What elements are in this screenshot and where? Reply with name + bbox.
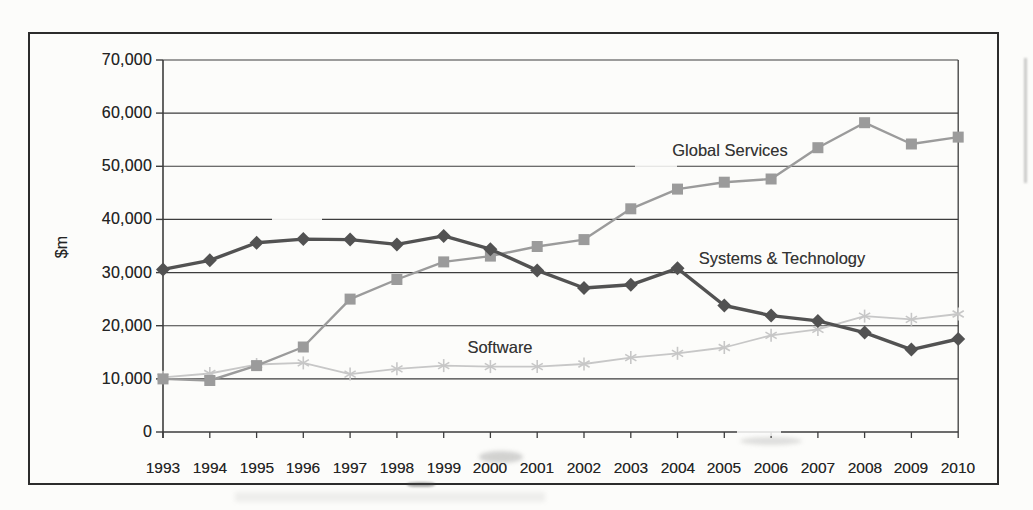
x-tick-label: 2004 (654, 459, 702, 476)
x-tick-label: 2006 (747, 459, 795, 476)
series-label-systems-technology: Systems & Technology (699, 249, 866, 268)
x-tick-label: 1996 (279, 459, 327, 476)
x-tick-label: 2003 (607, 459, 655, 476)
series-label-global-services: Global Services (672, 141, 788, 160)
y-tick-label: 20,000 (80, 317, 152, 335)
y-tick-label: 60,000 (80, 104, 152, 122)
y-tick-label: 40,000 (80, 210, 152, 228)
y-tick-label: 50,000 (80, 157, 152, 175)
x-tick-label: 2010 (934, 459, 982, 476)
scan-artifact-page-edge (1024, 58, 1027, 183)
y-axis-title: $m (46, 229, 78, 265)
series-label-software: Software (467, 338, 532, 357)
scanned-chart-figure: 010,00020,00030,00040,00050,00060,00070,… (0, 0, 1033, 510)
x-tick-label: 1997 (326, 459, 374, 476)
x-tick-label: 2009 (887, 459, 935, 476)
y-tick-label: 0 (80, 423, 152, 441)
x-tick-label: 1999 (420, 459, 468, 476)
x-tick-label: 1998 (373, 459, 421, 476)
x-tick-label: 2000 (466, 459, 514, 476)
x-tick-label: 1993 (139, 459, 187, 476)
y-tick-label: 30,000 (80, 264, 152, 282)
x-tick-label: 2007 (794, 459, 842, 476)
x-tick-label: 2001 (513, 459, 561, 476)
y-tick-label: 70,000 (80, 51, 152, 69)
x-tick-label: 1994 (186, 459, 234, 476)
y-tick-label: 10,000 (80, 370, 152, 388)
x-tick-label: 2008 (841, 459, 889, 476)
x-tick-label: 2002 (560, 459, 608, 476)
x-tick-label: 2005 (700, 459, 748, 476)
scan-artifact-ghost-band (235, 492, 545, 502)
x-tick-label: 1995 (233, 459, 281, 476)
